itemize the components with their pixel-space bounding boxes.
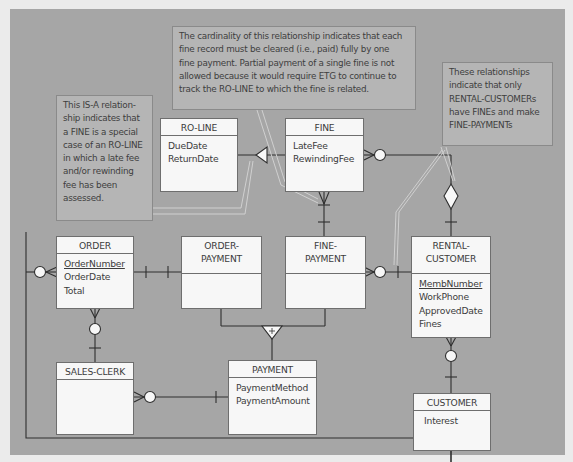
- entity-title-line: PAYMENT: [288, 252, 363, 265]
- attribute: Total: [64, 284, 133, 297]
- entity-order[interactable]: ORDER OrderNumber OrderDate Total: [56, 236, 134, 309]
- entity-attributes: MembNumber WorkPhone ApprovedDate Fines: [412, 274, 490, 330]
- note-line: The cardinality of this relationship ind…: [179, 30, 409, 43]
- note-line: RENTAL-CUSTOMERs: [449, 93, 546, 106]
- note-line: fine payment. Partial payment of a singl…: [179, 57, 409, 70]
- attribute: PaymentMethod: [236, 381, 316, 394]
- entity-attributes: OrderNumber OrderDate Total: [57, 254, 133, 297]
- entity-title: CUSTOMER: [414, 394, 490, 411]
- entity-title: SALES-CLERK: [57, 363, 133, 380]
- entity-title: FINE- PAYMENT: [286, 237, 365, 274]
- note-line: indicate that only: [449, 79, 546, 92]
- note-line: fine record must be cleared (i.e., paid)…: [179, 43, 409, 56]
- entity-attributes: DueDate ReturnDate: [161, 136, 237, 166]
- note-line: fee has been: [63, 179, 146, 192]
- note-line: This IS-A relation-: [63, 99, 146, 112]
- note-line: FINE-PAYMENTs: [449, 119, 546, 132]
- attribute: DueDate: [168, 139, 237, 152]
- entity-title: PAYMENT: [229, 361, 316, 378]
- note-line: These relationships: [449, 66, 546, 79]
- note-line: assessed.: [63, 192, 146, 205]
- primary-key-attribute: MembNumber: [419, 277, 490, 290]
- note-line: case of an RO-LINE: [63, 139, 146, 152]
- entity-rental-customer[interactable]: RENTAL- CUSTOMER MembNumber WorkPhone Ap…: [411, 236, 491, 338]
- note-line: track the RO-LINE to which the fine is r…: [179, 83, 409, 96]
- entity-customer[interactable]: CUSTOMER Interest: [413, 393, 491, 451]
- attribute: PaymentAmount: [236, 394, 316, 407]
- note-line: allowed because it would require ETG to …: [179, 70, 409, 83]
- entity-payment[interactable]: PAYMENT PaymentMethod PaymentAmount: [228, 360, 317, 435]
- entity-order-payment[interactable]: ORDER- PAYMENT: [181, 236, 262, 309]
- entity-title: RO-LINE: [161, 119, 237, 136]
- attribute: WorkPhone: [419, 290, 490, 303]
- note-line: and/or rewinding: [63, 165, 146, 178]
- attribute: Fines: [419, 317, 490, 330]
- entity-title-line: PAYMENT: [184, 252, 259, 265]
- primary-key-attribute: OrderNumber: [64, 257, 133, 270]
- entity-attributes: LateFee RewindingFee: [286, 136, 363, 166]
- entity-title: FINE: [286, 119, 363, 136]
- note-line: a FINE is a special: [63, 126, 146, 139]
- entity-ro-line[interactable]: RO-LINE DueDate ReturnDate: [160, 118, 238, 192]
- attribute: Interest: [424, 414, 490, 427]
- rental-customer-note: These relationships indicate that only R…: [442, 62, 553, 146]
- entity-attributes: PaymentMethod PaymentAmount: [229, 378, 316, 408]
- entity-title-line: ORDER-: [184, 239, 259, 252]
- entity-fine-payment[interactable]: FINE- PAYMENT: [285, 236, 366, 309]
- attribute: ApprovedDate: [419, 304, 490, 317]
- entity-title: ORDER: [57, 237, 133, 254]
- attribute: ReturnDate: [168, 152, 237, 165]
- cardinality-note: The cardinality of this relationship ind…: [172, 26, 416, 110]
- entity-attributes: Interest: [414, 411, 490, 427]
- entity-sales-clerk[interactable]: SALES-CLERK: [56, 362, 134, 435]
- entity-title: ORDER- PAYMENT: [182, 237, 261, 274]
- entity-fine[interactable]: FINE LateFee RewindingFee: [285, 118, 364, 192]
- entity-title-line: RENTAL-: [414, 239, 488, 252]
- attribute: OrderDate: [64, 270, 133, 283]
- entity-title-line: CUSTOMER: [414, 252, 488, 265]
- note-line: ship indicates that: [63, 112, 146, 125]
- attribute: RewindingFee: [293, 152, 363, 165]
- isa-relationship-note: This IS-A relation- ship indicates that …: [56, 95, 153, 221]
- attribute: LateFee: [293, 139, 363, 152]
- note-line: have FINEs and make: [449, 106, 546, 119]
- entity-title-line: FINE-: [288, 239, 363, 252]
- note-line: in which a late fee: [63, 152, 146, 165]
- entity-title: RENTAL- CUSTOMER: [412, 237, 490, 274]
